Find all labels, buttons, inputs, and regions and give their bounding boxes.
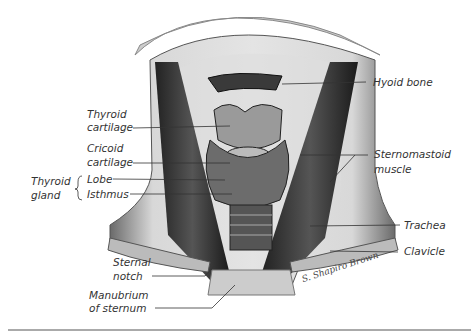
label-cricoid-cartilage-line2: cartilage <box>87 156 133 169</box>
label-isthmus: Isthmus <box>87 188 129 201</box>
label-clavicle: Clavicle <box>404 245 445 258</box>
label-trachea: Trachea <box>404 219 446 232</box>
thyroid-gland-bracket <box>75 176 82 200</box>
label-sternomastoid-line2: muscle <box>374 163 412 176</box>
bottom-divider <box>8 329 471 331</box>
label-cricoid-cartilage-line1: Cricoid <box>87 142 123 155</box>
label-thyroid-cartilage-line2: cartilage <box>87 121 133 134</box>
label-hyoid-bone: Hyoid bone <box>373 76 433 89</box>
label-manubrium-line1: Manubrium <box>89 289 149 302</box>
label-thyroid-gland-line1: Thyroid <box>31 175 71 188</box>
label-manubrium-line2: of sternum <box>89 302 146 315</box>
label-sternal-notch-line2: notch <box>113 270 143 283</box>
label-thyroid-cartilage-line1: Thyroid <box>87 108 127 121</box>
label-sternomastoid-line1: Sternomastoid <box>374 148 451 161</box>
label-thyroid-gland-line2: gland <box>31 189 60 202</box>
label-lobe: Lobe <box>87 173 112 186</box>
label-sternal-notch-line1: Sternal <box>113 256 151 269</box>
